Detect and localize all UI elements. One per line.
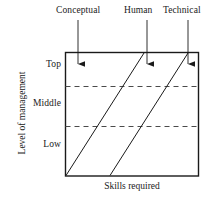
x-axis-title: Skills required [65, 181, 199, 191]
management-skills-diagram: Conceptual Human Technical Top Middle Lo… [0, 0, 213, 200]
label-technical: Technical [163, 5, 201, 16]
label-conceptual: Conceptual [56, 5, 100, 16]
y-axis-title: Level of management [17, 43, 27, 183]
label-human: Human [124, 5, 152, 16]
